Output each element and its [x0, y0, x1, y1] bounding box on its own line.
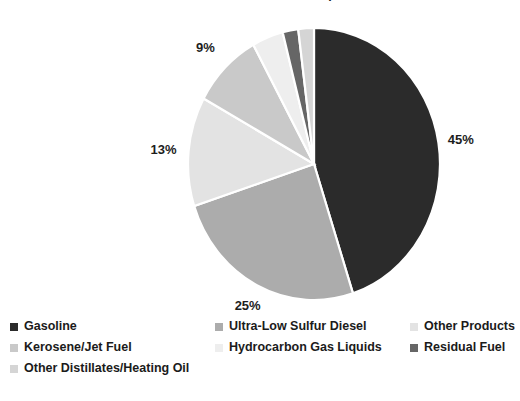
legend-label: Other Distillates/Heating Oil [24, 362, 189, 375]
legend-swatch-icon [410, 344, 418, 352]
legend-label: Gasoline [24, 320, 77, 333]
legend-item-hydrocarbon-gas-liquids[interactable]: Hydrocarbon Gas Liquids [215, 337, 382, 358]
pie-chart-figure: Petroleum Product Consumption 45%25%13%9… [0, 0, 520, 401]
legend-item-other-products[interactable]: Other Products [410, 316, 515, 337]
legend-swatch-icon [10, 344, 18, 352]
pie-svg [188, 28, 440, 300]
legend-row: Gasoline Ultra-Low Sulfur Diesel Other P… [10, 316, 520, 337]
pie-value-label: 13% [150, 141, 176, 156]
legend-swatch-icon [215, 344, 223, 352]
pie-value-label: 4% [242, 0, 261, 2]
legend-label: Ultra-Low Sulfur Diesel [229, 320, 367, 333]
legend-label: Residual Fuel [424, 341, 505, 354]
legend-item-kerosene-jet-fuel[interactable]: Kerosene/Jet Fuel [10, 337, 132, 358]
legend-label: Other Products [424, 320, 515, 333]
legend-label: Kerosene/Jet Fuel [24, 341, 132, 354]
pie-value-label: 45% [448, 131, 474, 146]
legend-item-gasoline[interactable]: Gasoline [10, 316, 77, 337]
chart-legend: Gasoline Ultra-Low Sulfur Diesel Other P… [10, 316, 520, 396]
legend-item-residual-fuel[interactable]: Residual Fuel [410, 337, 505, 358]
pie-plot-area: 45%25%13%9%4%2%2% [0, 0, 520, 315]
pie-value-label: 9% [196, 39, 215, 54]
legend-label: Hydrocarbon Gas Liquids [229, 341, 382, 354]
legend-item-ultra-low-sulfur-diesel[interactable]: Ultra-Low Sulfur Diesel [215, 316, 367, 337]
legend-row: Other Distillates/Heating Oil [10, 358, 520, 379]
legend-swatch-icon [10, 365, 18, 373]
legend-item-other-distillates-heating-oil[interactable]: Other Distillates/Heating Oil [10, 358, 189, 379]
legend-swatch-icon [410, 323, 418, 331]
pie-slice-group [188, 28, 440, 300]
legend-swatch-icon [10, 323, 18, 331]
pie-value-label: 25% [235, 297, 261, 312]
legend-swatch-icon [215, 323, 223, 331]
legend-row: Kerosene/Jet Fuel Hydrocarbon Gas Liquid… [10, 337, 520, 358]
